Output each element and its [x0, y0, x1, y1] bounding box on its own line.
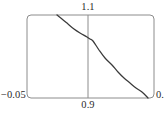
- figure-container: 1.1 0.9 −0.05 0.: [0, 0, 164, 117]
- data-curve: [57, 15, 148, 98]
- axis-label-top: 1.1: [81, 2, 94, 13]
- axis-label-right: 0.: [156, 90, 164, 101]
- plot-frame: [27, 15, 154, 98]
- axis-label-bottom: 0.9: [81, 100, 94, 111]
- axis-label-left: −0.05: [1, 90, 26, 101]
